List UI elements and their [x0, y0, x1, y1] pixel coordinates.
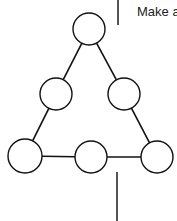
edge-top-mid-right	[97, 43, 117, 80]
circle-node-bottom-left	[8, 139, 42, 173]
circle-node-bottom-right	[141, 141, 173, 173]
triangle-circle-diagram	[0, 0, 177, 221]
diagram-stage: Make a	[0, 0, 177, 221]
edge-mid-right-bottom-right	[131, 108, 149, 143]
circle-node-bottom-middle	[75, 141, 107, 173]
edge-bottom-left-bottom-middle	[42, 156, 75, 157]
circle-node-mid-left	[40, 78, 72, 110]
circle-node-mid-right	[108, 78, 140, 110]
edge-top-mid-left	[63, 43, 82, 79]
edge-mid-left-bottom-left	[33, 108, 49, 140]
circle-node-top	[73, 13, 105, 45]
